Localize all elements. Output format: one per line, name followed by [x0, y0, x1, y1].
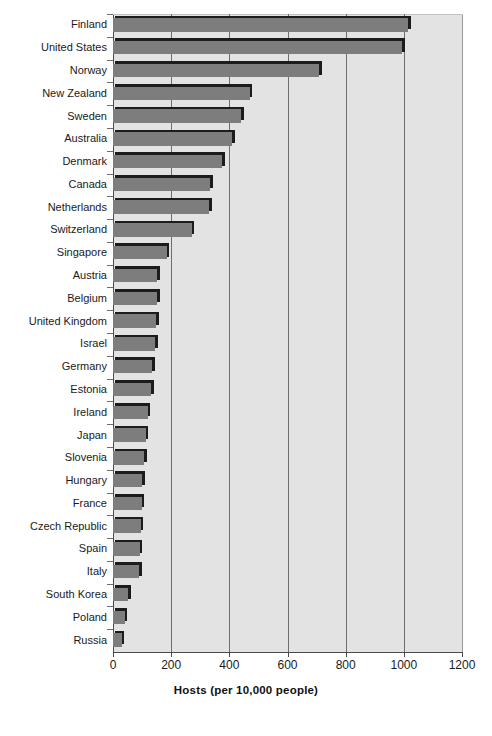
- bar: [113, 223, 192, 236]
- category-label: Belgium: [0, 292, 107, 304]
- bar: [113, 18, 408, 31]
- x-tick: [113, 652, 114, 657]
- x-tick: [462, 652, 463, 657]
- category-label: Russia: [0, 634, 107, 646]
- category-label: Ireland: [0, 406, 107, 418]
- y-tick: [107, 401, 113, 402]
- plot-frame-right: [462, 14, 463, 652]
- bar-row: [113, 493, 462, 516]
- category-label: Czech Republic: [0, 520, 107, 532]
- bar: [113, 519, 141, 532]
- y-tick: [107, 82, 113, 83]
- bar-row: [113, 356, 462, 379]
- y-tick: [107, 14, 113, 15]
- bar: [113, 565, 139, 578]
- bar: [113, 269, 157, 282]
- bar-row: [113, 424, 462, 447]
- category-label: Poland: [0, 611, 107, 623]
- category-axis-labels: FinlandUnited StatesNorwayNew ZealandSwe…: [0, 14, 107, 652]
- y-tick: [107, 470, 113, 471]
- bar: [113, 588, 128, 601]
- y-tick: [107, 242, 113, 243]
- bar: [113, 451, 144, 464]
- bar-row: [113, 333, 462, 356]
- category-label: Israel: [0, 337, 107, 349]
- category-label: Singapore: [0, 246, 107, 258]
- y-tick: [107, 265, 113, 266]
- bar: [113, 611, 125, 624]
- category-label: Switzerland: [0, 223, 107, 235]
- bar: [113, 406, 148, 419]
- x-tick: [404, 652, 405, 657]
- bar-row: [113, 219, 462, 242]
- bar-row: [113, 37, 462, 60]
- bar-row: [113, 310, 462, 333]
- x-tick-label: 400: [219, 658, 239, 672]
- category-label: United States: [0, 41, 107, 53]
- y-tick: [107, 37, 113, 38]
- bar: [113, 360, 152, 373]
- bar-row: [113, 82, 462, 105]
- y-tick: [107, 151, 113, 152]
- bar-row: [113, 174, 462, 197]
- bar-row: [113, 60, 462, 83]
- y-tick: [107, 515, 113, 516]
- y-tick: [107, 174, 113, 175]
- category-label: Italy: [0, 565, 107, 577]
- bar: [113, 474, 142, 487]
- y-tick: [107, 310, 113, 311]
- x-tick-label: 800: [336, 658, 356, 672]
- bar-row: [113, 105, 462, 128]
- y-tick: [107, 379, 113, 380]
- bar: [113, 314, 156, 327]
- y-tick: [107, 356, 113, 357]
- x-tick-label: 200: [161, 658, 181, 672]
- category-label: Hungary: [0, 474, 107, 486]
- bar: [113, 383, 151, 396]
- bar-row: [113, 401, 462, 424]
- bar-row: [113, 538, 462, 561]
- bar: [113, 41, 402, 54]
- bar: [113, 497, 142, 510]
- x-tick: [171, 652, 172, 657]
- bar-chart: FinlandUnited StatesNorwayNew ZealandSwe…: [0, 0, 492, 736]
- x-tick-label: 1000: [390, 658, 417, 672]
- category-label: United Kingdom: [0, 315, 107, 327]
- bar: [113, 178, 210, 191]
- bar: [113, 87, 250, 100]
- y-tick: [107, 196, 113, 197]
- x-axis-title: Hosts (per 10,000 people): [0, 684, 492, 696]
- bar-row: [113, 447, 462, 470]
- y-tick: [107, 287, 113, 288]
- bar: [113, 64, 319, 77]
- bar: [113, 155, 222, 168]
- x-tick-label: 0: [110, 658, 117, 672]
- category-label: Norway: [0, 64, 107, 76]
- category-label: Slovenia: [0, 451, 107, 463]
- category-label: Denmark: [0, 155, 107, 167]
- bar-row: [113, 128, 462, 151]
- y-tick: [107, 561, 113, 562]
- bar: [113, 428, 146, 441]
- bar-row: [113, 606, 462, 629]
- category-label: Spain: [0, 542, 107, 554]
- y-tick: [107, 424, 113, 425]
- bars-layer: [113, 14, 462, 652]
- y-tick: [107, 447, 113, 448]
- bar-row: [113, 14, 462, 37]
- bar-row: [113, 151, 462, 174]
- x-tick: [288, 652, 289, 657]
- category-label: South Korea: [0, 588, 107, 600]
- category-label: Japan: [0, 429, 107, 441]
- bar-row: [113, 584, 462, 607]
- y-tick: [107, 105, 113, 106]
- category-label: Canada: [0, 178, 107, 190]
- category-label: Estonia: [0, 383, 107, 395]
- bar-row: [113, 561, 462, 584]
- bar: [113, 109, 241, 122]
- bar-row: [113, 629, 462, 652]
- category-label: Germany: [0, 360, 107, 372]
- y-tick: [107, 538, 113, 539]
- x-tick: [229, 652, 230, 657]
- y-tick: [107, 493, 113, 494]
